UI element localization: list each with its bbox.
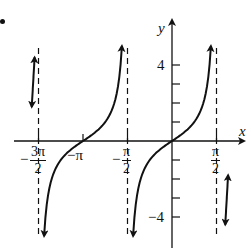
x-tick-neg3pi2-sign: − bbox=[20, 152, 28, 167]
tangent-plot bbox=[0, 0, 251, 248]
tangent-branch-right-partial bbox=[225, 175, 228, 224]
y-tick-label-neg4: −4 bbox=[148, 210, 164, 225]
x-tick-label-negpi2: π 2 bbox=[122, 145, 131, 176]
x-tick-label-pi2: π 2 bbox=[211, 145, 220, 176]
y-tick-label-4: 4 bbox=[157, 58, 165, 73]
y-axis-label: y bbox=[158, 21, 165, 36]
x-axis-label: x bbox=[239, 124, 246, 139]
x-tick-negpi2-sign: − bbox=[112, 152, 120, 167]
tangent-branch-left-partial bbox=[32, 57, 35, 106]
asymptotes bbox=[39, 48, 217, 236]
x-tick-label-negpi: −π bbox=[67, 148, 83, 163]
x-tick-label-neg3pi2: 3π 2 bbox=[30, 145, 46, 176]
